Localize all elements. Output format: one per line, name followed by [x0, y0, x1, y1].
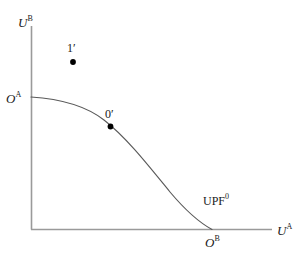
origin-b-superscript: B: [214, 234, 220, 243]
point-1-prime-label: 1′: [67, 42, 76, 54]
origin-b-label: OB: [205, 234, 220, 250]
origin-b-base: O: [205, 235, 214, 250]
point-0-prime-label: 0′: [105, 108, 114, 120]
point-marker-1-prime: [70, 59, 76, 65]
utility-possibility-frontier-figure: UB UA OA OB UPF0 1′ 0′: [0, 0, 307, 258]
y-axis-label-superscript: B: [27, 14, 33, 23]
origin-a-base: O: [6, 91, 15, 106]
origin-a-superscript: A: [15, 90, 21, 99]
x-axis-label: UA: [277, 222, 292, 238]
upf-curve-label-base: UPF: [203, 194, 225, 208]
upf-curve-label-superscript: 0: [225, 192, 229, 201]
x-axis-label-base: U: [277, 223, 286, 238]
upf-curve-label: UPF0: [203, 192, 229, 208]
y-axis-label-base: U: [18, 15, 27, 30]
y-axis-label: UB: [18, 14, 33, 30]
point-marker-0-prime: [108, 124, 114, 130]
upf-curve: [31, 97, 212, 230]
x-axis-label-superscript: A: [286, 222, 292, 231]
origin-a-label: OA: [6, 90, 21, 106]
plot-area: [0, 0, 307, 258]
